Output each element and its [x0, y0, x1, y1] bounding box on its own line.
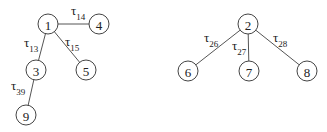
edge-label-1-4: τ14: [71, 3, 86, 22]
node-label: 5: [83, 64, 90, 79]
node-label: 1: [45, 18, 52, 33]
node-label: 4: [96, 18, 103, 33]
node-5: 5: [76, 60, 96, 80]
node-9: 9: [16, 105, 36, 125]
node-3: 3: [26, 60, 46, 80]
node-1: 1: [38, 14, 58, 34]
edge-label-2-6: τ26: [204, 30, 219, 49]
edge-2-7: [248, 34, 249, 61]
node-8: 8: [297, 61, 317, 81]
node-2: 2: [238, 14, 258, 34]
node-label: 7: [246, 65, 253, 80]
node-label: 8: [304, 65, 311, 80]
node-label: 2: [245, 18, 252, 33]
node-6: 6: [178, 61, 198, 81]
node-4: 4: [89, 14, 109, 34]
node-label: 9: [23, 109, 30, 124]
node-label: 3: [33, 64, 40, 79]
edge-3-9: [28, 80, 34, 105]
tree-diagram: τ14τ13τ15τ3914359τ26τ27τ282678: [0, 0, 327, 132]
tree-1: τ14τ13τ15τ3914359: [11, 3, 109, 125]
edge-label-1-3: τ13: [24, 35, 39, 54]
edge-1-3: [39, 34, 46, 61]
node-label: 6: [185, 65, 192, 80]
edge-label-2-7: τ27: [232, 38, 247, 57]
edge-label-3-9: τ39: [11, 78, 26, 97]
edge-label-1-5: τ15: [65, 34, 80, 53]
node-7: 7: [239, 61, 259, 81]
tree-2: τ26τ27τ282678: [178, 14, 317, 81]
